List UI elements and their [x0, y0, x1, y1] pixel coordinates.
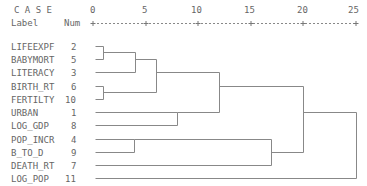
- dendrogram: [0, 0, 367, 186]
